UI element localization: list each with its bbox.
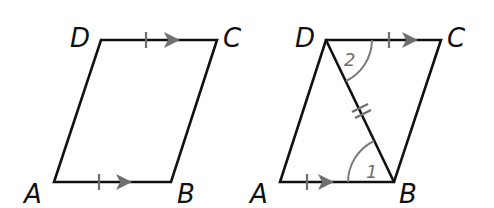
figure-1-parallelogram: D C A B xyxy=(22,23,242,208)
vertex-label-d: D xyxy=(70,23,90,53)
vertex-label-d: D xyxy=(295,23,315,53)
angle-label-1: 1 xyxy=(366,161,377,182)
vertex-label-a: A xyxy=(248,179,268,208)
vertex-label-c: C xyxy=(447,23,466,53)
diagram-canvas: D C A B 2 1 D C A B xyxy=(0,0,494,208)
vertex-label-b: B xyxy=(399,179,417,208)
angle-label-2: 2 xyxy=(344,49,355,70)
diagram-svg: D C A B 2 1 D C A B xyxy=(0,0,494,208)
parallelogram-outline xyxy=(54,40,217,182)
diagonal-db xyxy=(326,40,394,182)
vertex-label-b: B xyxy=(177,179,195,208)
figure-2-parallelogram-diagonal: 2 1 D C A B xyxy=(248,23,466,208)
vertex-label-a: A xyxy=(22,179,42,208)
vertex-label-c: C xyxy=(223,23,242,53)
